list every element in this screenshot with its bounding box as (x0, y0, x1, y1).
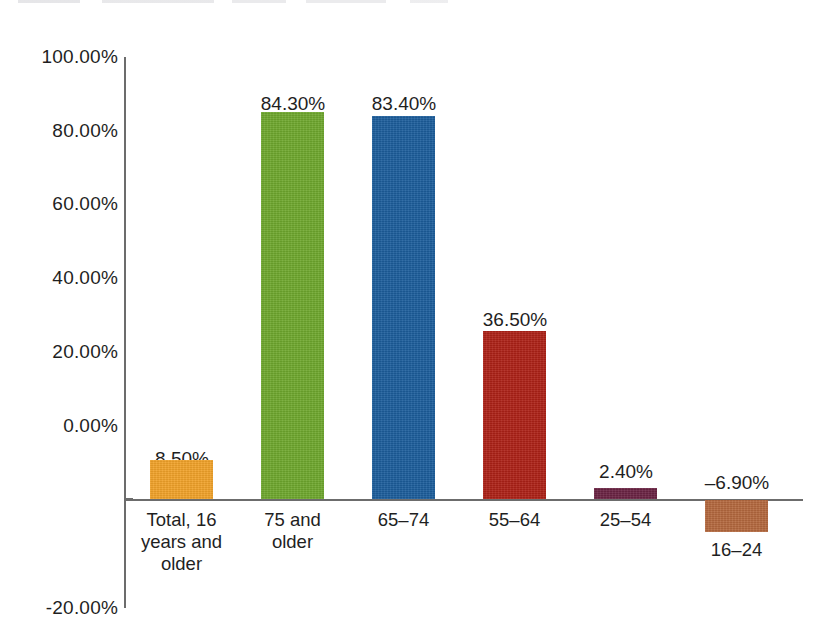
bar-value-label: 36.50% (450, 309, 580, 331)
plot-area: 8.50% Total, 16 years and older 84.30% 7… (126, 57, 803, 608)
y-tick-label-100: 100.00% (6, 46, 118, 68)
bar-25-54[interactable] (594, 488, 657, 499)
y-tick-label-0: 0.00% (6, 415, 118, 437)
bar-55-64[interactable] (483, 331, 546, 499)
bar-total-16-and-older[interactable] (150, 460, 213, 499)
category-label-55-64: 55–64 (455, 509, 574, 531)
bar-65-74[interactable] (372, 116, 435, 499)
bar-group-total-16-and-older: 8.50% Total, 16 years and older (126, 57, 237, 608)
category-line-1: 25–54 (566, 509, 685, 531)
category-line-1: 55–64 (455, 509, 574, 531)
category-label-75-and-older: 75 and older (233, 509, 352, 553)
y-tick-label-20: 20.00% (6, 341, 118, 363)
category-label-65-74: 65–74 (344, 509, 463, 531)
bar-75-and-older[interactable] (261, 112, 324, 499)
category-label-total-16-and-older: Total, 16 years and older (122, 509, 241, 575)
y-tick-label-40: 40.00% (6, 267, 118, 289)
category-line-1: 75 and (233, 509, 352, 531)
bar-group-75-and-older: 84.30% 75 and older (237, 57, 348, 608)
bar-chart: 100.00% 80.00% 60.00% 40.00% 20.00% 0.00… (0, 0, 824, 630)
category-line-1: 65–74 (344, 509, 463, 531)
y-tick-label-80: 80.00% (6, 120, 118, 142)
bar-group-65-74: 83.40% 65–74 (348, 57, 459, 608)
y-tick-label-60: 60.00% (6, 193, 118, 215)
category-line-2: older (233, 531, 352, 553)
category-line-3: older (122, 553, 241, 575)
bar-group-16-24: –6.90% 16–24 (681, 57, 792, 608)
category-label-25-54: 25–54 (566, 509, 685, 531)
bar-value-label: –6.90% (672, 472, 802, 494)
bar-group-25-54: 2.40% 25–54 (570, 57, 681, 608)
y-axis-labels: 100.00% 80.00% 60.00% 40.00% 20.00% 0.00… (0, 0, 118, 630)
category-label-16-24: 16–24 (677, 539, 796, 561)
bar-value-label: 83.40% (339, 93, 469, 115)
category-line-1: 16–24 (677, 539, 796, 561)
bar-16-24[interactable] (705, 500, 768, 532)
bar-group-55-64: 36.50% 55–64 (459, 57, 570, 608)
category-line-1: Total, 16 (122, 509, 241, 531)
category-line-2: years and (122, 531, 241, 553)
y-tick-label-neg20: -20.00% (6, 597, 118, 619)
